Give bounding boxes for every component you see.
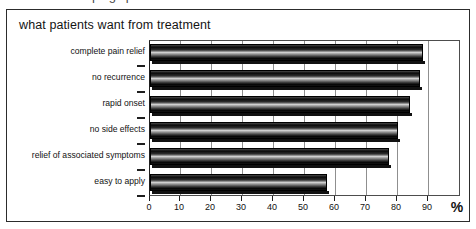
y-axis-tick <box>137 169 145 171</box>
x-axis: 0 10 20 30 40 50 60 70 80 90 % <box>149 196 464 222</box>
x-axis-tick <box>427 196 428 201</box>
x-axis-tick <box>179 196 180 201</box>
y-axis-tick <box>137 143 145 145</box>
bar <box>150 96 410 113</box>
bar-shadow <box>152 139 400 142</box>
x-axis-tick <box>149 196 150 201</box>
y-axis-tick <box>137 65 145 67</box>
x-axis-unit-label: % <box>451 199 463 215</box>
bar <box>150 70 420 87</box>
bar-series <box>150 41 459 195</box>
x-axis-tick-label: 0 <box>146 202 151 212</box>
plot-area <box>149 40 460 196</box>
x-axis-tick-label: 90 <box>422 202 432 212</box>
y-axis-tick <box>137 117 145 119</box>
chart-figure: what patients want from treatment comple… <box>6 9 470 222</box>
bar-shadow <box>152 191 329 194</box>
x-axis-tick <box>365 196 366 201</box>
x-axis-tick <box>210 196 211 201</box>
chart-title: what patients want from treatment <box>19 18 211 32</box>
x-axis-tick-label: 70 <box>360 202 370 212</box>
y-axis-tick <box>137 195 145 197</box>
x-axis-tick-label: 20 <box>205 202 215 212</box>
bar <box>150 174 327 191</box>
bar-shadow <box>152 61 425 64</box>
x-axis-tick <box>334 196 335 201</box>
x-axis-tick-label: 30 <box>236 202 246 212</box>
y-axis-label: no recurrence <box>92 72 145 82</box>
bar <box>150 148 389 165</box>
x-axis-tick-label: 80 <box>391 202 401 212</box>
bar-shadow <box>152 113 412 116</box>
bar-shadow <box>152 87 422 90</box>
cutoff-text-above-figure: p g p <box>0 0 476 9</box>
x-axis-tick-label: 50 <box>298 202 308 212</box>
bar-shadow <box>152 165 391 168</box>
x-axis-tick-label: 10 <box>174 202 184 212</box>
x-axis-tick <box>241 196 242 201</box>
y-axis-label: no side effects <box>90 124 145 134</box>
y-axis-label: easy to apply <box>94 176 145 186</box>
y-axis-labels: complete pain relief no recurrence rapid… <box>7 40 145 196</box>
x-axis-tick-label: 60 <box>329 202 339 212</box>
bar <box>150 122 398 139</box>
y-axis-label: relief of associated symptoms <box>32 150 145 160</box>
cutoff-text: p g p <box>92 0 136 3</box>
y-axis-label: complete pain relief <box>70 46 145 56</box>
x-axis-tick <box>303 196 304 201</box>
bar <box>150 44 423 61</box>
x-axis-tick <box>272 196 273 201</box>
x-axis-tick <box>396 196 397 201</box>
y-axis-label: rapid onset <box>102 98 145 108</box>
y-axis-tick <box>137 91 145 93</box>
x-axis-tick-label: 40 <box>267 202 277 212</box>
